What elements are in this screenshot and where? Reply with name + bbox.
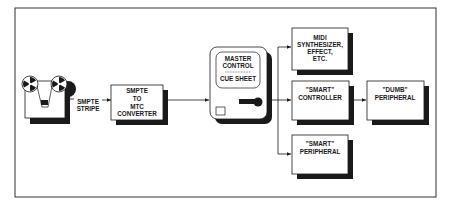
midi-synthesizer-box: MIDI SYNTHESIZER, EFFECT, ETC. (292, 28, 353, 75)
svg-text:PERIPHERAL: PERIPHERAL (375, 94, 416, 101)
smpte-stripe-label-2: STRIPE (77, 105, 100, 112)
drive-square-icon (216, 107, 225, 115)
svg-text:ETC.: ETC. (313, 55, 328, 62)
svg-text:"DUMB": "DUMB" (383, 86, 408, 93)
svg-text:CUE SHEET: CUE SHEET (220, 75, 256, 82)
svg-text:CONTROL: CONTROL (222, 62, 253, 69)
svg-text:MTC: MTC (130, 103, 144, 110)
smpte-stripe-label: SMPTE (77, 98, 99, 105)
midi-timecode-diagram: SMPTE STRIPE SMPTE TO MTC CONVERTER MAST… (0, 0, 452, 202)
svg-text:PERIPHERAL: PERIPHERAL (300, 148, 341, 155)
svg-text:MIDI: MIDI (313, 34, 327, 41)
svg-text:TO: TO (133, 95, 142, 102)
smpte-to-mtc-converter-box: SMPTE TO MTC CONVERTER (111, 85, 168, 125)
reel-to-reel-tape-icon (22, 76, 76, 124)
svg-text:"SMART": "SMART" (306, 140, 334, 147)
svg-text:"SMART": "SMART" (306, 86, 334, 93)
dumb-peripheral-box: "DUMB" PERIPHERAL (367, 81, 429, 125)
svg-text:CONTROLLER: CONTROLLER (298, 94, 342, 101)
master-control-computer: MASTER CONTROL CUE SHEET (210, 47, 272, 124)
svg-text:CONVERTER: CONVERTER (117, 110, 157, 117)
smart-controller-box: "SMART" CONTROLLER (292, 81, 354, 125)
smart-peripheral-box: "SMART" PERIPHERAL (292, 135, 353, 179)
svg-text:SMPTE: SMPTE (126, 87, 148, 94)
svg-text:MASTER: MASTER (225, 55, 252, 62)
